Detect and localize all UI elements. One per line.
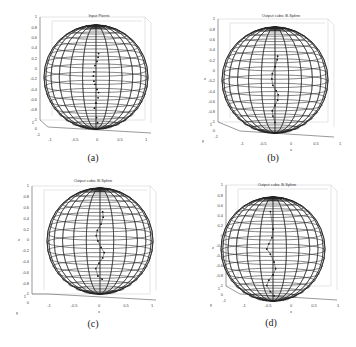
y-tick-label: -1 xyxy=(222,298,226,303)
z-tick-label: 0 xyxy=(213,68,216,73)
x-tick-label: 1 xyxy=(145,137,148,142)
z-tick-label: 0.2 xyxy=(217,223,223,228)
z-tick-label: -0.6 xyxy=(30,97,38,102)
z-tick-label: -0.8 xyxy=(22,281,30,286)
z-tick-label: -0.6 xyxy=(216,263,224,268)
x-tick-label: 0.5 xyxy=(311,303,317,308)
x-tick-label: -1 xyxy=(48,137,52,142)
figure-caption: (c) xyxy=(4,318,182,329)
z-tick-label: 0.2 xyxy=(23,227,29,232)
x-tick-label: -0.5 xyxy=(72,137,80,142)
sphere-wireframe xyxy=(221,197,325,302)
z-tick-label: -0.2 xyxy=(22,248,30,253)
z-tick-label: -0.6 xyxy=(208,99,216,104)
x-tick-label: 0 xyxy=(96,137,99,142)
axes xyxy=(226,185,337,300)
x-tick-label: 1 xyxy=(339,141,342,146)
x-tick-label: 1 xyxy=(151,303,154,308)
x-tick-label: 0 xyxy=(290,141,293,146)
z-tick-label: -0.6 xyxy=(22,270,30,275)
panel-a: 10.80.60.40.20-0.2-0.4-0.6-0.8-1-1-0.500… xyxy=(0,0,178,173)
z-tick-label: 0.2 xyxy=(31,56,37,61)
z-tick-label: 0.8 xyxy=(217,193,223,198)
y-axis-label: y xyxy=(16,310,18,315)
z-tick-label: 0.8 xyxy=(209,27,215,32)
x-tick-label: 0.5 xyxy=(313,141,319,146)
z-axis-label: z xyxy=(18,237,20,242)
z-tick-label: 0.8 xyxy=(31,25,37,30)
z-tick-label: 0.6 xyxy=(209,37,215,42)
z-tick-label: 0.4 xyxy=(31,45,37,50)
z-tick-label: -1 xyxy=(33,117,37,122)
axes xyxy=(40,17,151,133)
z-tick-label: -0.4 xyxy=(216,253,224,258)
x-tick-label: -0.5 xyxy=(260,141,268,146)
z-axis-label: z xyxy=(204,76,206,81)
x-tick-label: 0.5 xyxy=(117,137,123,142)
x-tick-label: -0.5 xyxy=(71,303,79,308)
panel-c: 10.80.60.40.20-0.2-0.4-0.6-0.8-1-1-0.500… xyxy=(0,174,178,347)
z-tick-label: 0.4 xyxy=(23,216,29,221)
z-tick-label: 0.4 xyxy=(209,47,215,52)
z-axis-label: z xyxy=(212,245,214,250)
z-tick-label: 0.8 xyxy=(23,194,29,199)
y-tick-label: 0 xyxy=(213,128,216,133)
y-tick-label: 0 xyxy=(27,300,30,305)
y-tick-label: -1 xyxy=(214,134,218,139)
plot-title: Input Points xyxy=(10,13,188,18)
z-tick-label: -0.4 xyxy=(22,259,30,264)
x-tick-label: 0 xyxy=(290,303,293,308)
z-tick-label: -0.2 xyxy=(208,78,216,83)
z-tick-label: 0 xyxy=(35,66,38,71)
z-tick-label: 0.6 xyxy=(217,203,223,208)
x-axis-label: x xyxy=(98,309,100,314)
z-tick-label: -0.2 xyxy=(30,76,38,81)
z-tick-label: -1 xyxy=(219,283,223,288)
z-tick-label: -0.8 xyxy=(208,109,216,114)
x-tick-label: -0.5 xyxy=(265,303,273,308)
sphere-plot-a: 10.80.60.40.20-0.2-0.4-0.6-0.8-1-1-0.500… xyxy=(0,0,178,173)
sphere-wireframe xyxy=(44,25,148,130)
z-tick-label: 0.2 xyxy=(209,58,215,63)
x-tick-label: -1 xyxy=(240,141,244,146)
z-tick-label: -1 xyxy=(211,119,215,124)
figure-caption: (b) xyxy=(184,152,356,163)
figure-caption: (a) xyxy=(4,152,182,163)
sphere-plot-b: 10.80.60.40.20-0.2-0.4-0.6-0.8-1-1-0.500… xyxy=(178,0,356,173)
figure-caption: (d) xyxy=(182,317,356,328)
plot-title: Output cubic B-Spline xyxy=(188,182,356,187)
z-tick-label: 1 xyxy=(27,183,30,188)
z-tick-label: 0.6 xyxy=(31,35,37,40)
axes xyxy=(218,19,334,137)
x-tick-label: 0 xyxy=(98,303,101,308)
z-tick-label: -0.4 xyxy=(208,89,216,94)
x-tick-label: -1 xyxy=(47,303,51,308)
z-tick-label: 0.4 xyxy=(217,213,223,218)
plot-title: Output cubic B-Spline xyxy=(192,13,356,18)
panel-d: 10.80.60.40.20-0.2-0.4-0.6-0.8-1-1-0.500… xyxy=(178,174,356,347)
z-tick-label: 0.6 xyxy=(23,205,29,210)
y-axis-label: y xyxy=(210,302,212,307)
z-tick-label: -1 xyxy=(25,291,29,296)
x-tick-label: 0.5 xyxy=(123,303,129,308)
panel-b: 10.80.60.40.20-0.2-0.4-0.6-0.8-1-1-0.500… xyxy=(178,0,356,173)
y-tick-label: 0 xyxy=(35,126,38,131)
x-tick-label: 1 xyxy=(337,303,340,308)
z-tick-label: -0.2 xyxy=(216,243,224,248)
x-axis-label: x xyxy=(290,309,292,314)
y-axis-label: y xyxy=(202,138,204,143)
sphere-wireframe xyxy=(47,188,153,295)
y-tick-label: 0 xyxy=(221,292,224,297)
sphere-wireframe xyxy=(222,27,328,134)
z-tick-label: -0.8 xyxy=(30,107,38,112)
x-tick-label: -1 xyxy=(242,303,246,308)
z-tick-label: -0.8 xyxy=(216,273,224,278)
y-tick-label: -1 xyxy=(36,132,40,137)
z-tick-label: -0.4 xyxy=(30,87,38,92)
plot-title: Output cubic B-Spline xyxy=(4,178,182,183)
z-tick-label: 0 xyxy=(27,237,30,242)
